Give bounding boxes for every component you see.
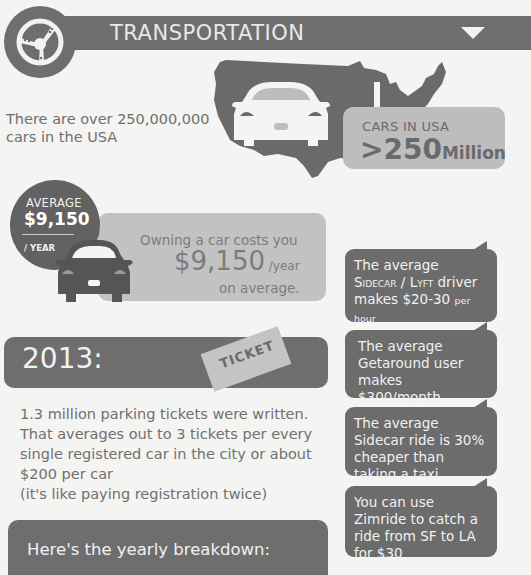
paragraph-line: single registered car in the city or abo… <box>20 444 340 464</box>
fact-line: Sidecar / Lyft driver <box>354 274 489 291</box>
paragraph-line: 1.3 million parking tickets were written… <box>20 404 340 424</box>
fact-line: makes $20-30 per hour <box>354 291 489 327</box>
steering-wheel-badge <box>4 6 76 78</box>
triangle-down-icon[interactable] <box>461 27 485 39</box>
fact-bubble-zimride: You can use Zimride to catch a ride from… <box>345 486 497 557</box>
fact-bubble-sidecar-ride: The average Sidecar ride is 30% cheaper … <box>345 407 497 476</box>
paragraph-line: $200 per car <box>20 464 340 484</box>
cars-in-usa-number: >250 <box>360 133 442 166</box>
fact-line: The average <box>354 257 489 274</box>
fact-bubble-getaround: The average Getaround user makes $300/mo… <box>345 330 497 398</box>
parking-tickets-paragraph: 1.3 million parking tickets were written… <box>20 404 340 504</box>
brand-lyft: Lyft <box>410 274 434 290</box>
fact-bubble-sidecar-lyft-driver: The average Sidecar / Lyft driver makes … <box>345 249 497 322</box>
average-badge-period: / YEAR <box>24 243 55 253</box>
average-badge-label: AVERAGE <box>26 196 82 210</box>
yearly-breakdown-title: Here's the yearly breakdown: <box>27 540 270 559</box>
fact-text: makes $20-30 <box>354 291 455 307</box>
car-cost-value: $9,150 <box>174 246 265 276</box>
cars-in-usa-label: CARS IN USA <box>362 119 449 134</box>
section-title: TRANSPORTATION <box>110 18 304 48</box>
car-cost-amount: $9,150 /year <box>174 246 300 276</box>
average-badge-divider <box>22 234 74 235</box>
fact-text: driver <box>433 274 477 290</box>
cars-in-usa-value: >250Million <box>360 133 506 166</box>
car-icon <box>52 236 136 304</box>
paragraph-line: (it's like paying registration twice) <box>20 484 340 504</box>
car-cost-period: /year <box>265 259 300 273</box>
average-badge-value: $9,150 <box>24 209 90 229</box>
cars-in-usa-unit: Million <box>442 143 506 163</box>
brand-separator: / <box>397 274 410 290</box>
car-cost-suffix: on average. <box>219 280 300 296</box>
steering-wheel-icon <box>14 16 66 68</box>
paragraph-line: That averages out to 3 tickets per every <box>20 424 340 444</box>
intro-text: There are over 250,000,000 cars in the U… <box>6 110 216 146</box>
brand-sidecar: Sidecar <box>354 274 397 290</box>
year-heading: 2013: <box>22 342 103 375</box>
